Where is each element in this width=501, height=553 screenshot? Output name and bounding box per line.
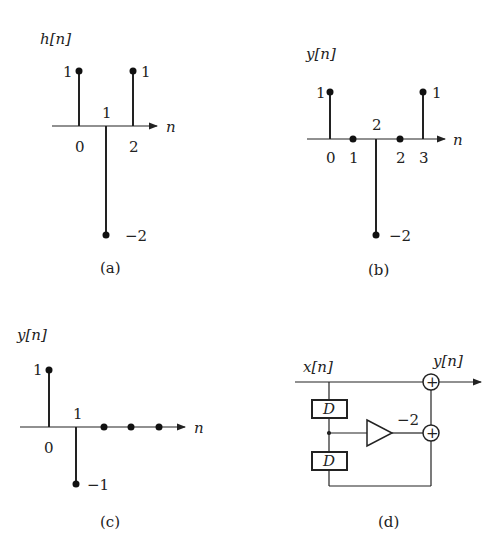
tick-label: 2 [129, 138, 139, 156]
tick-label: 0 [75, 138, 85, 156]
value-label: 1 [141, 63, 151, 81]
stem-dot [350, 136, 357, 143]
tick-label: 2 [372, 116, 382, 134]
panel-a-ylabel: h[n] [40, 30, 71, 48]
tick-label: 0 [326, 149, 336, 167]
delay-label: D [322, 452, 335, 470]
panel-b-xlabel: n [453, 131, 463, 149]
stem-dot [420, 89, 427, 96]
stem-dot [373, 232, 380, 239]
value-label: 1 [33, 361, 43, 379]
stem-dot [397, 136, 404, 143]
panel-c-stem-plot [20, 367, 185, 488]
value-label: 1 [63, 63, 73, 81]
input-label: x[n] [303, 358, 333, 376]
tick-label: 0 [44, 439, 54, 457]
tick-label: 3 [419, 149, 429, 167]
value-label: −1 [87, 476, 109, 494]
stem-dot [156, 424, 163, 431]
panel-d-caption: (d) [378, 513, 399, 531]
gain-triangle-icon [367, 420, 392, 446]
panel-b-ylabel: y[n] [305, 45, 336, 63]
tick-label: 1 [102, 104, 112, 122]
stem-dot [103, 232, 110, 239]
figure-canvas: h[n] n 1 1 −2 0 1 2 (a) y[n] n 1 1 −2 0 … [0, 0, 501, 553]
delay-label: D [322, 400, 335, 418]
stem-dot [76, 68, 83, 75]
stem-dot [73, 481, 80, 488]
stem-dot [46, 367, 53, 374]
stem-dot [101, 424, 108, 431]
panel-a-stem-plot [52, 68, 157, 239]
panel-b-caption: (b) [368, 261, 389, 279]
value-label: −2 [389, 227, 411, 245]
panel-a-caption: (a) [100, 259, 121, 277]
panel-c-xlabel: n [194, 419, 204, 437]
value-label: −2 [125, 227, 147, 245]
output-label: y[n] [432, 352, 463, 370]
tick-label: 1 [349, 149, 359, 167]
stem-dot [327, 89, 334, 96]
adder-symbol: + [426, 424, 439, 442]
tick-label: 1 [73, 405, 83, 423]
tick-label: 2 [396, 149, 406, 167]
panel-a-xlabel: n [166, 118, 176, 136]
adder-symbol: + [426, 373, 439, 391]
gain-label: −2 [397, 411, 419, 429]
stem-dot [130, 68, 137, 75]
value-label: 1 [432, 84, 442, 102]
stem-dot [128, 424, 135, 431]
panel-c-ylabel: y[n] [16, 326, 47, 344]
value-label: 1 [316, 84, 326, 102]
panel-c-caption: (c) [100, 513, 120, 531]
